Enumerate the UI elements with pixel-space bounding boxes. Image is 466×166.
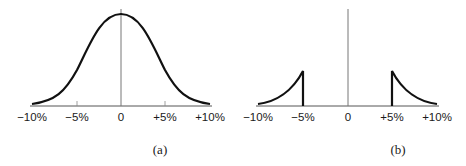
panel-a-tick-label: 0: [118, 111, 124, 123]
figure: −10% −5% 0 +5% +10% (a) −10% −5% 0 +5% +…: [0, 0, 466, 166]
panel-b-tick-label: −10%: [243, 111, 273, 123]
panel-b-tick-label: +5%: [380, 111, 403, 123]
panel-a-caption: (a): [153, 142, 167, 157]
panel-b-tick-label: 0: [345, 111, 351, 123]
panel-a-tick-label: −5%: [65, 111, 88, 123]
panel-a: −10% −5% 0 +5% +10% (a): [17, 9, 225, 157]
panel-a-tick-label: +5%: [153, 111, 176, 123]
panel-a-tick-label: −10%: [17, 111, 47, 123]
panel-b-tick-label: +10%: [422, 111, 452, 123]
panel-a-tick-label: +10%: [195, 111, 225, 123]
panel-b-caption: (b): [390, 142, 405, 157]
panel-b-right-tail: [392, 71, 437, 106]
panel-b: −10% −5% 0 +5% +10% (b): [243, 9, 452, 157]
panel-b-tick-label: −5%: [291, 111, 314, 123]
panel-b-left-tail: [258, 71, 303, 106]
